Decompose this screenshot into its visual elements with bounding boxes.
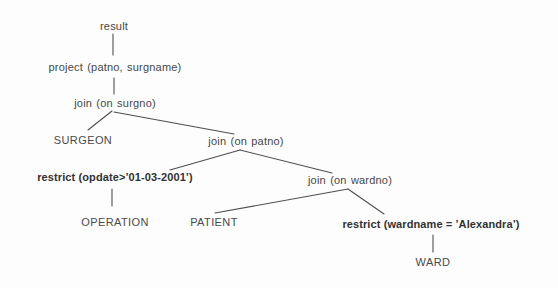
edge-join-wardno-patient	[215, 189, 348, 213]
node-join-patno: join (on patno)	[208, 136, 283, 147]
node-restrict-opdate: restrict (opdate>’01-03-2001’)	[37, 172, 193, 183]
node-result: result	[100, 21, 128, 32]
node-patient-relation: PATIENT	[190, 217, 238, 228]
edge-join-surgno-surgeon	[88, 111, 112, 130]
node-operation-relation: OPERATION	[81, 217, 149, 228]
edge-join-patno-restrict-opdate	[170, 150, 240, 170]
edge-join-patno-join-wardno	[240, 150, 332, 173]
node-project: project (patno, surgname)	[49, 62, 182, 73]
node-join-wardno: join (on wardno)	[308, 175, 392, 186]
query-tree-diagram: result project (patno, surgname) join (o…	[0, 0, 558, 288]
edge-join-surgno-join-patno	[114, 112, 234, 134]
node-ward-relation: WARD	[416, 257, 451, 268]
node-join-surgno: join (on surgno)	[74, 98, 156, 109]
edge-join-wardno-restrict-wardname	[348, 189, 384, 214]
node-surgeon-relation: SURGEON	[54, 135, 112, 146]
node-restrict-wardname: restrict (wardname = ’Alexandra’)	[342, 219, 519, 230]
